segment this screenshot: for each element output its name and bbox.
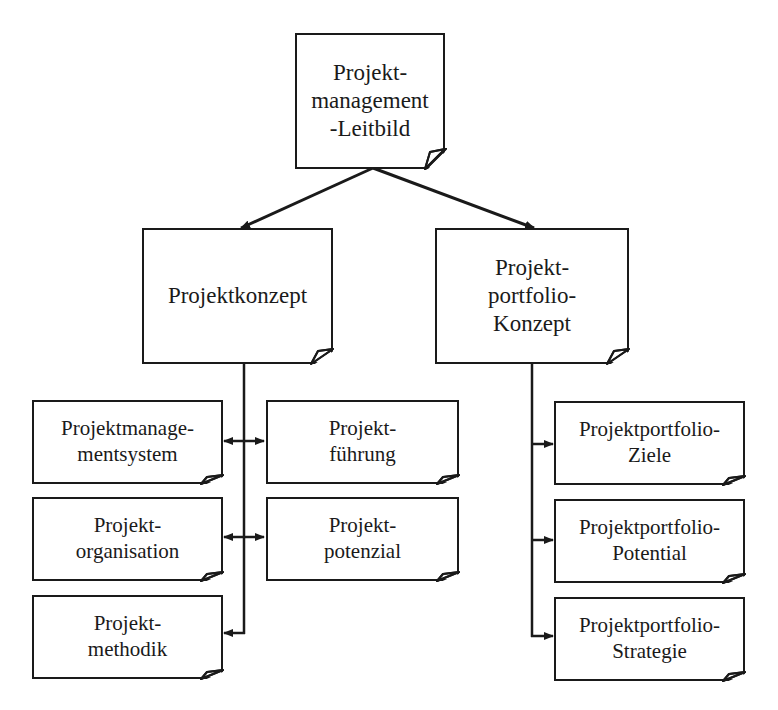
node-projektkonzept: Projektkonzept [142, 228, 333, 364]
node-label-line: Projekt- [495, 254, 569, 282]
node-label-line: Ziele [628, 443, 671, 469]
node-pp-strategie: Projektportfolio- Strategie [554, 597, 745, 681]
node-label-line: Projekt- [94, 611, 162, 637]
node-label-line: führung [329, 442, 396, 468]
node-pp-potential: Projektportfolio- Potential [554, 499, 745, 583]
node-label-line: Projektportfolio- [579, 613, 720, 639]
node-label-line: Projekt- [333, 59, 407, 87]
edge-leitbild-portfolio [373, 168, 534, 228]
node-label-line: Projekt- [94, 513, 162, 539]
node-leitbild: Projekt- management -Leitbild [295, 33, 445, 169]
node-label-line: Strategie [612, 639, 687, 665]
node-pp-ziele: Projektportfolio- Ziele [554, 401, 745, 485]
node-potenzial: Projekt- potenzial [266, 497, 459, 581]
hierarchy-diagram: Projekt- management -Leitbild Projektkon… [0, 0, 778, 710]
node-label-line: portfolio- [488, 282, 576, 310]
node-pm-system: Projektmanage- mentsystem [32, 400, 223, 484]
node-label-line: management [311, 87, 429, 115]
node-label-line: Potential [612, 541, 687, 567]
node-organisation: Projekt- organisation [32, 497, 223, 581]
node-label-line: Projektportfolio- [579, 417, 720, 443]
node-label-line: Projekt- [329, 416, 397, 442]
edge-leitbild-projektkonzept [241, 168, 373, 228]
node-methodik: Projekt- methodik [32, 595, 223, 679]
node-fuehrung: Projekt- führung [266, 400, 459, 484]
node-label-line: potenzial [324, 539, 401, 565]
node-label-line: Projektkonzept [168, 282, 307, 310]
node-label-line: Konzept [493, 310, 571, 338]
node-label-line: Projektmanage- [61, 416, 194, 442]
node-label-line: organisation [76, 539, 179, 565]
node-label-line: Projektportfolio- [579, 515, 720, 541]
node-label-line: Projekt- [329, 513, 397, 539]
node-label-line: mentsystem [77, 442, 177, 468]
node-portfolio-konzept: Projekt- portfolio- Konzept [435, 228, 629, 364]
node-label-line: methodik [88, 637, 167, 663]
node-label-line: -Leitbild [330, 115, 410, 143]
